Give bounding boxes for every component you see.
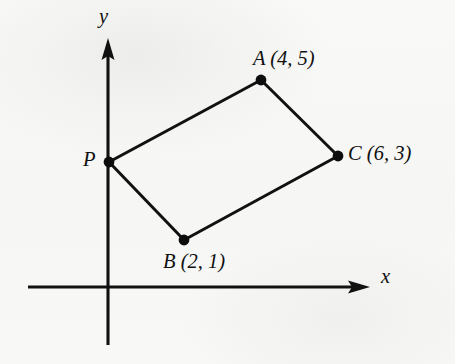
point-label-B: B (2, 1): [163, 250, 225, 273]
vertex-dot-A: [256, 75, 267, 86]
figure-canvas: A (4, 5) C (6, 3) B (2, 1) P x y: [0, 0, 455, 364]
point-label-C: C (6, 3): [348, 142, 411, 165]
vertex-dot-B: [179, 235, 190, 246]
x-axis-label: x: [381, 265, 390, 288]
point-label-A: A (4, 5): [253, 47, 315, 70]
edge-A-C: [261, 80, 338, 156]
edge-P-A: [109, 80, 261, 162]
edge-C-B: [184, 156, 338, 240]
edge-B-P: [109, 162, 184, 240]
diagram-svg: [0, 0, 455, 364]
vertex-dot-P: [104, 157, 115, 168]
point-label-P: P: [83, 148, 96, 171]
vertex-dot-C: [333, 151, 344, 162]
y-axis-label: y: [99, 5, 108, 28]
